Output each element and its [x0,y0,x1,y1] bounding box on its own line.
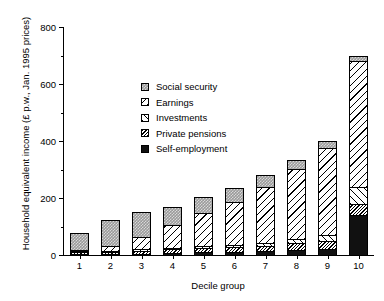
bar-segment-self-employment[interactable] [318,249,337,255]
bar-decile-8[interactable] [287,160,306,255]
x-tick-label: 4 [170,260,175,271]
bar-segment-investments[interactable] [318,235,337,241]
bar-segment-social-security[interactable] [163,207,182,226]
bar-segment-self-employment[interactable] [132,254,151,255]
bar-segment-earnings[interactable] [132,237,151,250]
y-tick-label: 200 [40,193,56,204]
bar-segment-earnings[interactable] [256,187,275,243]
bar-segment-self-employment[interactable] [163,253,182,255]
x-tick [80,255,81,259]
bar-segment-social-security[interactable] [349,56,368,62]
bar-segment-investments[interactable] [163,248,182,250]
bar-segment-social-security[interactable] [287,160,306,170]
bar-segment-self-employment[interactable] [225,252,244,255]
bar-decile-9[interactable] [318,141,337,255]
bar-segment-self-employment[interactable] [70,254,89,255]
x-tick [111,255,112,259]
bar-segment-social-security[interactable] [318,141,337,148]
x-axis-title: Decile group [63,280,373,291]
legend-item-private-pensions[interactable]: Private pensions [141,126,227,142]
bar-segment-earnings[interactable] [101,246,120,251]
bar-decile-2[interactable] [101,220,120,255]
y-tick-major [59,27,64,28]
solid-black-swatch [141,145,149,153]
bar-segment-earnings[interactable] [287,169,306,238]
bar-segment-investments[interactable] [194,246,213,248]
bar-segment-earnings[interactable] [225,202,244,245]
bar-segment-earnings[interactable] [349,61,368,186]
bar-decile-10[interactable] [349,56,368,256]
bar-decile-4[interactable] [163,207,182,255]
bar-segment-investments[interactable] [256,243,275,246]
legend-item-self-employment[interactable]: Self-employment [141,141,227,157]
x-tick [328,255,329,259]
bar-segment-private-pensions[interactable] [70,252,89,254]
stacked-bar-chart-figure: Household equivalent income (£ p.w., Jan… [0,0,384,301]
bar-segment-private-pensions[interactable] [318,241,337,249]
bar-segment-private-pensions[interactable] [256,246,275,251]
legend-item-earnings[interactable]: Earnings [141,95,227,111]
bar-segment-earnings[interactable] [70,250,89,251]
x-tick-label: 1 [77,260,82,271]
y-tick-label: 0 [51,250,56,261]
x-tick [266,255,267,259]
x-tick [173,255,174,259]
bar-segment-self-employment[interactable] [194,252,213,255]
bar-segment-earnings[interactable] [163,225,182,247]
bar-segment-private-pensions[interactable] [194,248,213,252]
bar-segment-private-pensions[interactable] [132,251,151,254]
bar-segment-investments[interactable] [101,251,120,252]
y-tick-label: 600 [40,79,56,90]
bar-segment-earnings[interactable] [318,148,337,234]
legend-item-label: Self-employment [156,143,227,154]
legend-item-social-security[interactable]: Social security [141,79,227,95]
x-tick-label: 2 [108,260,113,271]
bar-decile-6[interactable] [225,187,244,255]
bar-segment-private-pensions[interactable] [349,204,368,215]
bar-segment-private-pensions[interactable] [225,247,244,252]
legend-item-label: Earnings [156,97,194,108]
bar-segment-investments[interactable] [70,251,89,252]
bar-segment-earnings[interactable] [194,213,213,246]
bar-segment-social-security[interactable] [225,188,244,203]
x-tick-label: 9 [325,260,330,271]
y-tick-minor [61,170,64,171]
bar-decile-7[interactable] [256,175,275,255]
bar-segment-investments[interactable] [287,239,306,244]
bar-segment-investments[interactable] [225,245,244,247]
bar-segment-self-employment[interactable] [287,250,306,255]
x-tick [359,255,360,259]
bar-segment-private-pensions[interactable] [101,252,120,254]
bar-segment-self-employment[interactable] [256,251,275,255]
bar-segment-private-pensions[interactable] [163,249,182,252]
bar-decile-5[interactable] [194,197,213,255]
bar-segment-social-security[interactable] [101,220,120,245]
chart-legend: Social securityEarningsInvestmentsPrivat… [141,79,227,157]
x-tick-label: 8 [294,260,299,271]
bar-segment-self-employment[interactable] [101,254,120,255]
y-tick-major [59,84,64,85]
bar-segment-social-security[interactable] [256,175,275,187]
x-tick-label: 3 [139,260,144,271]
x-tick-label: 10 [353,260,364,271]
bar-segment-self-employment[interactable] [349,215,368,255]
bar-segment-social-security[interactable] [132,212,151,237]
x-tick [204,255,205,259]
x-tick-label: 7 [263,260,268,271]
bar-segment-investments[interactable] [349,187,368,204]
y-tick-label: 400 [40,136,56,147]
backslash-swatch [141,98,149,106]
y-axis-title: Household equivalent income (£ p.w., Jan… [20,9,31,259]
y-tick-major [59,141,64,142]
bar-segment-investments[interactable] [132,249,151,250]
y-tick-major [59,198,64,199]
bar-segment-social-security[interactable] [194,197,213,213]
y-tick-minor [61,227,64,228]
bar-segment-social-security[interactable] [70,233,89,250]
bar-decile-3[interactable] [132,212,151,255]
x-tick [297,255,298,259]
bar-decile-1[interactable] [70,233,89,255]
y-tick-minor [61,113,64,114]
legend-item-investments[interactable]: Investments [141,110,227,126]
bar-segment-private-pensions[interactable] [287,243,306,250]
